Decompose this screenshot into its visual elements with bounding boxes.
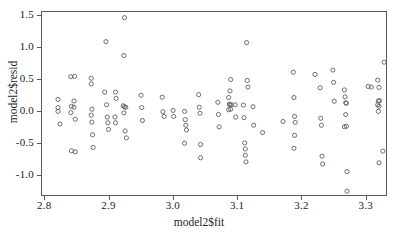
data-point [243, 153, 247, 157]
x-tick-label: 3.3 [346, 199, 386, 211]
data-point [292, 133, 296, 137]
data-point [171, 108, 175, 112]
data-point [123, 129, 127, 133]
data-point [243, 147, 247, 151]
data-point [332, 99, 336, 103]
y-tick-mark [37, 111, 41, 112]
data-point [342, 88, 346, 92]
x-tick-label: 3.2 [281, 199, 321, 211]
y-tick-label: 1.5 [4, 8, 34, 20]
data-point [377, 85, 381, 89]
data-point [376, 78, 380, 82]
data-point [56, 97, 60, 101]
data-point [242, 116, 246, 120]
data-point [217, 125, 221, 129]
y-tick-mark [37, 79, 41, 80]
data-point [343, 95, 347, 99]
data-point [89, 113, 93, 117]
data-point [113, 90, 117, 94]
data-point [106, 127, 110, 131]
data-point [198, 142, 202, 146]
data-point [72, 105, 76, 109]
scatter-plot: 2.82.93.03.13.23.3 1.51.00.50.0-0.5-1.0 … [0, 0, 398, 238]
data-point [124, 136, 128, 140]
data-point [331, 68, 335, 72]
data-point [69, 104, 73, 108]
data-point [293, 120, 297, 124]
y-axis-label: model2$resid [7, 32, 19, 152]
y-tick-mark [37, 143, 41, 144]
data-point [292, 95, 296, 99]
data-point [104, 103, 108, 107]
y-tick-mark [37, 15, 41, 16]
data-point [216, 112, 220, 116]
x-tick-label: 3.0 [153, 199, 193, 211]
x-tick-label: 3.1 [217, 199, 257, 211]
data-point [90, 107, 94, 111]
data-point [122, 111, 126, 115]
data-point [73, 117, 77, 121]
data-point [161, 110, 165, 114]
data-point [291, 70, 295, 74]
data-point [105, 115, 109, 119]
y-tick-label: -1.0 [4, 168, 34, 180]
data-point [160, 95, 164, 99]
data-point [140, 106, 144, 110]
data-point [104, 40, 108, 44]
data-point [261, 130, 265, 134]
x-axis-label: model2$fit [0, 216, 398, 228]
data-point [89, 82, 93, 86]
data-point [244, 160, 248, 164]
data-point [313, 72, 317, 76]
data-point [58, 122, 62, 126]
data-point [252, 123, 256, 127]
data-point [216, 100, 220, 104]
data-point [243, 141, 247, 145]
data-point [172, 114, 176, 118]
data-point [321, 162, 325, 166]
data-point [184, 123, 188, 127]
data-point [162, 114, 166, 118]
data-point [245, 78, 249, 82]
data-point [234, 115, 238, 119]
data-point [73, 150, 77, 154]
data-point [183, 109, 187, 113]
data-point [251, 105, 255, 109]
data-point [90, 120, 94, 124]
data-point [113, 121, 117, 125]
data-point [246, 85, 250, 89]
data-point [183, 141, 187, 145]
data-point [331, 80, 335, 84]
data-point [319, 123, 323, 127]
x-tick-label: 2.9 [89, 199, 129, 211]
data-point [320, 154, 324, 158]
data-points-layer [42, 12, 386, 195]
data-point [103, 90, 107, 94]
data-point [197, 105, 201, 109]
data-point [197, 93, 201, 97]
data-point [91, 145, 95, 149]
data-point [228, 89, 232, 93]
data-point [345, 170, 349, 174]
data-point [89, 76, 93, 80]
data-point [318, 86, 322, 90]
data-point [381, 149, 385, 153]
data-point [198, 156, 202, 160]
data-point [122, 53, 126, 57]
data-point [292, 146, 296, 150]
y-tick-mark [37, 175, 41, 176]
data-point [292, 114, 296, 118]
data-point [281, 119, 285, 123]
data-point [122, 16, 126, 20]
data-point [184, 128, 188, 132]
data-point [245, 41, 249, 45]
data-point [319, 116, 323, 120]
data-point [227, 95, 231, 99]
data-point [139, 93, 143, 97]
data-point [344, 112, 348, 116]
data-point [345, 189, 349, 193]
data-point [113, 115, 117, 119]
data-point [382, 60, 386, 64]
data-point [241, 103, 245, 107]
data-point [183, 118, 187, 122]
